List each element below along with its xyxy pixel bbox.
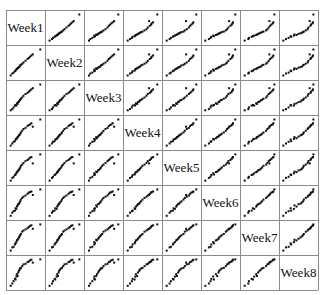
scatter-panel-3-2 [49, 84, 81, 112]
data-point [296, 171, 298, 173]
data-point [210, 36, 212, 38]
scatter-panel-8-4 [127, 258, 159, 286]
data-point [232, 55, 234, 57]
data-point [195, 84, 197, 86]
data-point [204, 40, 206, 42]
data-point [147, 93, 149, 95]
data-point [244, 180, 246, 182]
data-point [30, 259, 32, 261]
data-point [93, 138, 95, 140]
data-point [152, 259, 154, 261]
data-point [273, 14, 275, 16]
data-point [127, 180, 129, 182]
data-point [166, 285, 168, 287]
data-point [234, 153, 236, 155]
data-point [25, 127, 27, 129]
data-point [101, 233, 103, 235]
data-point [25, 263, 27, 265]
data-point [183, 267, 185, 269]
data-point [156, 223, 158, 225]
data-point [285, 212, 287, 214]
data-point [129, 283, 131, 285]
data-point [185, 126, 187, 128]
data-point [20, 199, 22, 201]
data-point [78, 14, 80, 16]
data-point [129, 212, 131, 214]
data-point [312, 119, 314, 121]
data-point [285, 73, 287, 75]
data-point [17, 103, 19, 105]
data-point [208, 38, 210, 40]
data-point [305, 197, 307, 199]
scatter-panel-2-8 [282, 49, 314, 77]
data-point [223, 267, 225, 269]
data-point [185, 20, 187, 22]
data-point [148, 228, 150, 230]
data-point [296, 102, 298, 104]
data-point [272, 191, 274, 193]
scatter-panel-1-4 [127, 14, 159, 42]
scatter-panel-4-6 [204, 119, 236, 147]
data-point [268, 87, 270, 89]
data-point [228, 87, 230, 89]
scatter-panel-3-5 [166, 84, 198, 112]
data-point [195, 258, 197, 260]
data-point [132, 174, 134, 176]
diagonal-label-week6: Week6 [201, 185, 240, 220]
scatter-panel-7-1 [10, 223, 42, 251]
data-point [144, 63, 146, 65]
data-point [10, 215, 12, 217]
data-point [195, 49, 197, 51]
data-point [32, 126, 34, 128]
data-point [204, 109, 206, 111]
scatter-panel-3-4 [127, 84, 159, 112]
data-point [156, 153, 158, 155]
data-point [172, 210, 174, 212]
data-point [244, 40, 246, 42]
data-point [25, 60, 27, 62]
data-point [113, 262, 115, 264]
data-point [105, 128, 107, 130]
data-point [39, 119, 41, 121]
data-point [290, 139, 292, 141]
scatter-panel-2-3 [88, 49, 119, 77]
data-point [129, 73, 131, 75]
data-point [170, 210, 172, 212]
scatter-panel-6-5 [166, 188, 198, 216]
data-point [210, 246, 212, 248]
data-point [95, 171, 97, 173]
data-point [290, 242, 292, 244]
scatter-panel-6-7 [244, 188, 276, 216]
data-point [73, 228, 75, 230]
data-point [117, 153, 119, 155]
data-point [30, 224, 32, 226]
scatter-panel-8-2 [49, 258, 81, 286]
data-point [176, 103, 178, 105]
data-point [185, 194, 187, 196]
data-point [248, 72, 250, 74]
data-point [144, 29, 146, 31]
data-point [148, 53, 150, 55]
data-point [13, 246, 15, 248]
data-point [131, 246, 133, 248]
data-point [57, 103, 59, 105]
data-point [146, 95, 148, 97]
data-point [93, 69, 95, 71]
scatter-panel-1-8 [282, 14, 314, 42]
data-point [10, 250, 12, 252]
data-point [147, 160, 149, 162]
data-point [225, 164, 227, 166]
scatter-panel-5-3 [88, 153, 119, 181]
data-point [30, 122, 32, 124]
data-point [272, 122, 274, 124]
data-point [23, 230, 25, 232]
data-point [256, 103, 258, 105]
data-point [208, 143, 210, 145]
scatter-panel-7-5 [166, 223, 198, 251]
scatter-panel-7-8 [282, 223, 314, 251]
data-point [251, 210, 253, 212]
data-point [212, 138, 214, 140]
data-point [192, 259, 194, 261]
data-point [208, 108, 210, 110]
data-point [312, 21, 314, 23]
